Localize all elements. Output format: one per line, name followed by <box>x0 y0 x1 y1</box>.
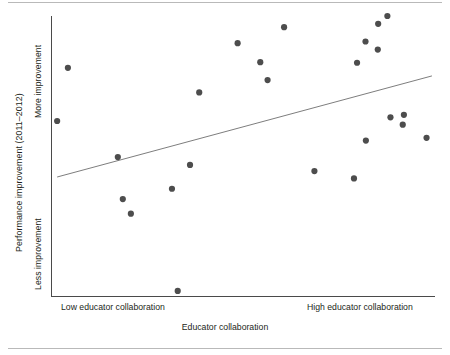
scatter-plot-figure: Performance improvement (2011–2012) More… <box>0 0 450 355</box>
x-axis-tick-high-collaboration: High educator collaboration <box>307 302 413 312</box>
plot-area <box>51 16 435 296</box>
y-axis-title: Performance improvement (2011–2012) <box>14 93 24 252</box>
x-axis-title: Educator collaboration <box>0 322 450 332</box>
y-axis-tick-less-improvement: Less improvement <box>33 218 43 290</box>
y-axis-tick-more-improvement: More improvement <box>33 45 43 118</box>
x-axis-tick-low-collaboration: Low educator collaboration <box>61 302 165 312</box>
